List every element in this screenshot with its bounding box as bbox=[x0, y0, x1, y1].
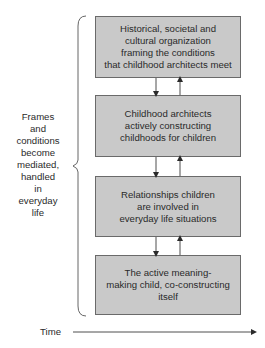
time-axis-label: Time bbox=[40, 326, 61, 338]
connector-1 bbox=[156, 78, 180, 95]
connector-3 bbox=[156, 237, 180, 255]
box-childhood-architects-text: Childhood architects actively constructi… bbox=[120, 108, 216, 144]
box-meaning-making-child: The active meaning- making child, co-con… bbox=[95, 255, 241, 315]
box-relationships: Relationships children are involved in e… bbox=[95, 176, 241, 237]
curly-brace-icon bbox=[73, 16, 86, 316]
brace-label: Frames and conditions become mediated, h… bbox=[8, 111, 68, 219]
box-historical-organization-text: Historical, societal and cultural organi… bbox=[104, 23, 231, 71]
connector-2 bbox=[156, 157, 180, 176]
box-meaning-making-child-text: The active meaning- making child, co-con… bbox=[106, 267, 230, 303]
box-childhood-architects: Childhood architects actively constructi… bbox=[95, 95, 241, 157]
box-historical-organization: Historical, societal and cultural organi… bbox=[95, 16, 241, 78]
box-relationships-text: Relationships children are involved in e… bbox=[119, 189, 216, 225]
